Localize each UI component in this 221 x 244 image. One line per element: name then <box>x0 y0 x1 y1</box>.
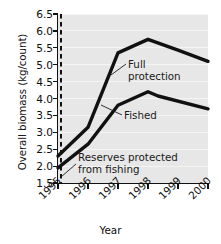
annotation-reserves-protected: Reserves protected from fishing <box>78 152 178 175</box>
annotation-line: Reserves protected <box>78 152 178 164</box>
y-tick-label: 4.0 <box>27 94 53 105</box>
y-tick-label: 6.0 <box>27 26 53 37</box>
x-axis-title: Year <box>0 224 221 236</box>
y-axis-tick-labels: 6.5 6.0 5.5 5.0 4.5 4.0 3.5 3.0 2.5 2.0 … <box>27 0 53 244</box>
y-tick-label: 2.0 <box>27 161 53 172</box>
annotation-line: from fishing <box>78 164 178 176</box>
y-tick-label: 3.0 <box>27 127 53 138</box>
annotation-full-protection: Full protection <box>128 59 181 82</box>
annotation-line: Full <box>128 59 181 71</box>
y-tick-label: 6.5 <box>27 9 53 20</box>
y-tick-label: 4.5 <box>27 77 53 88</box>
y-tick-label: 5.5 <box>27 43 53 54</box>
annotation-line: protection <box>128 71 181 83</box>
y-tick-label: 5.0 <box>27 60 53 71</box>
y-tick-label: 3.5 <box>27 110 53 121</box>
annotation-line: Fished <box>124 110 157 122</box>
annotation-fished: Fished <box>124 110 157 122</box>
y-tick-label: 2.5 <box>27 144 53 155</box>
chart-figure: Overall biomass (kg/count) 6.5 6.0 5.5 5… <box>0 0 221 244</box>
